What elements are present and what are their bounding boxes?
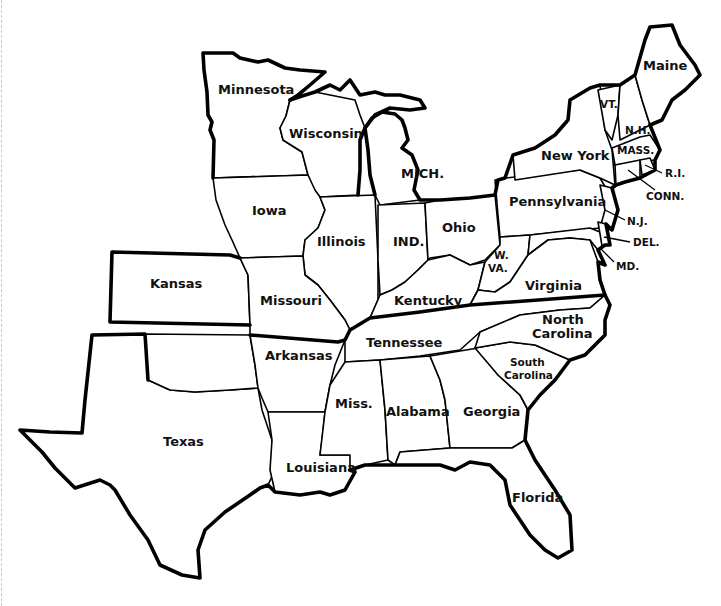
label-maine: Maine	[643, 58, 687, 73]
label-ohio: Ohio	[442, 220, 476, 235]
label-massachusetts: MASS.	[617, 144, 654, 156]
label-kansas: Kansas	[150, 276, 203, 291]
label-louisiana: Louisiana	[286, 460, 356, 475]
label-michigan: MICH.	[401, 166, 444, 181]
label-new-jersey: N.J.	[627, 215, 648, 227]
label-missouri: Missouri	[260, 293, 322, 308]
label-rhode-island: R.I.	[665, 167, 685, 179]
state-oklahoma-area[interactable]	[145, 334, 258, 392]
label-connecticut: CONN.	[646, 190, 684, 202]
label-new-york: New York	[541, 148, 610, 163]
label-illinois: Illinois	[317, 234, 366, 249]
eastern-us-outline-map: Minnesota Wisconsin Iowa Illinois MICH. …	[0, 0, 721, 606]
label-north-carolina-1: North	[542, 312, 584, 327]
label-pennsylvania: Pennsylvania	[509, 194, 606, 209]
label-georgia: Georgia	[463, 404, 520, 419]
label-delaware: DEL.	[633, 236, 660, 248]
label-north-carolina-2: Carolina	[532, 326, 593, 341]
label-indiana: IND.	[393, 234, 424, 249]
label-alabama: Alabama	[386, 404, 450, 419]
label-south-carolina-2: Carolina	[504, 369, 553, 381]
label-wisconsin: Wisconsin	[289, 126, 363, 141]
label-kentucky: Kentucky	[394, 293, 463, 308]
label-florida: Florida	[512, 490, 563, 505]
label-iowa: Iowa	[252, 203, 287, 218]
label-maryland: MD.	[616, 260, 639, 272]
label-virginia: Virginia	[525, 278, 582, 293]
label-mississippi: Miss.	[335, 396, 373, 411]
label-south-carolina-1: South	[510, 356, 545, 368]
label-minnesota: Minnesota	[218, 82, 294, 97]
label-arkansas: Arkansas	[265, 348, 333, 363]
label-west-virginia-va: VA.	[488, 262, 508, 274]
label-tennessee: Tennessee	[366, 335, 443, 350]
label-vermont: VT.	[600, 98, 618, 110]
label-texas: Texas	[163, 434, 204, 449]
label-new-hampshire: N.H.	[625, 124, 651, 136]
label-west-virginia-w: W.	[494, 249, 509, 261]
